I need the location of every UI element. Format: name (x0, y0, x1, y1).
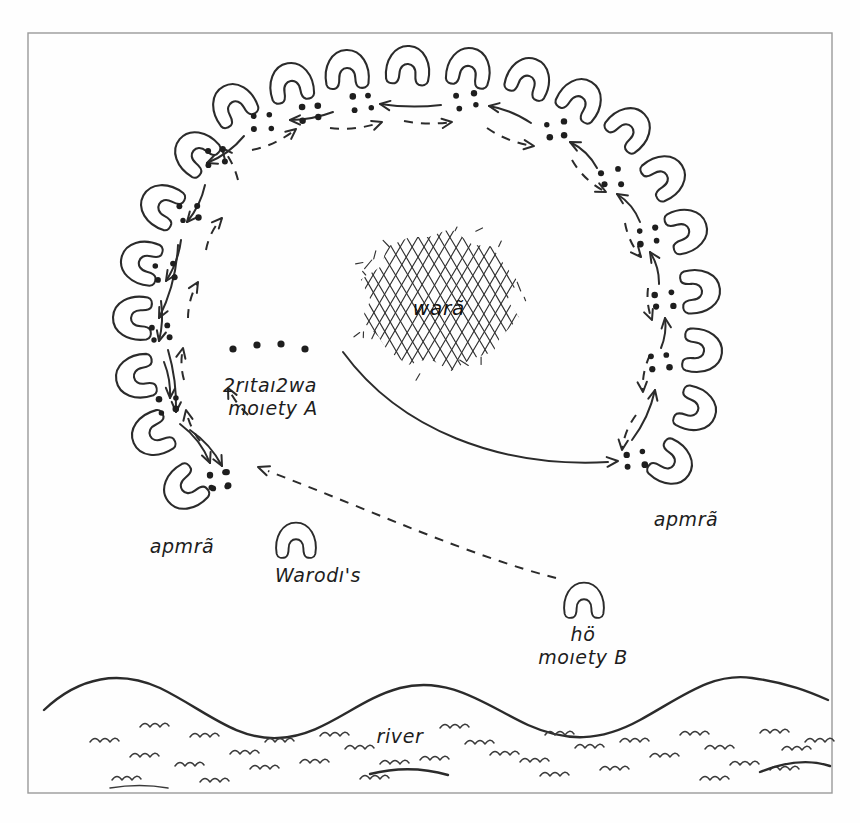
dot (222, 159, 228, 165)
wave-mark (575, 744, 604, 748)
hatch-stroke (474, 200, 592, 405)
wave-mark (140, 723, 169, 727)
dashed-line (487, 128, 534, 146)
hatch-stray-tick (455, 227, 457, 231)
wave-mark (490, 751, 519, 755)
hatch-stroke (453, 200, 572, 405)
hatch-stray-tick (374, 251, 376, 259)
dot (176, 203, 182, 209)
house-symbol (113, 353, 158, 402)
wave-mark (265, 738, 294, 742)
village-dot-cluster (251, 112, 274, 132)
dot (172, 274, 178, 280)
village-dot-cluster (453, 90, 478, 111)
house-symbol (671, 383, 722, 437)
wave-mark (90, 738, 119, 742)
house-symbol (205, 76, 261, 130)
house-symbol (602, 99, 660, 157)
wave-mark (300, 759, 329, 763)
solid-exchange-arrow (290, 112, 333, 125)
moiety-a-dot-row (229, 340, 308, 352)
solid-exchange-arrow (617, 194, 640, 222)
village-circle-diagram: warã 2rıtaı2wa moıety A hö moıety B apmr… (0, 0, 860, 823)
arrowhead (570, 142, 581, 151)
arrowhead (189, 282, 198, 293)
dot (637, 228, 643, 234)
arrowhead (638, 382, 647, 392)
wave-mark (130, 753, 159, 757)
dot (653, 304, 659, 310)
house-outline (663, 203, 713, 256)
wave-mark (465, 740, 494, 744)
village-dot-cluster (299, 102, 322, 123)
house-symbol (502, 52, 556, 103)
wave-mark (620, 738, 649, 742)
house-outline (553, 71, 610, 126)
house-outline (266, 60, 315, 105)
dot (224, 484, 230, 490)
solid-exchange-arrow (661, 318, 671, 348)
dot (251, 113, 257, 119)
dashed-exchange-arrow (252, 129, 296, 150)
moiety-a-name-label: 2rıtaı2wa (223, 374, 317, 396)
dot (669, 289, 675, 295)
wave-mark (650, 753, 679, 757)
dot (299, 117, 305, 123)
dot (648, 353, 654, 359)
hatch-stroke (519, 200, 637, 405)
moiety-a-sublabel: moıety A (228, 397, 318, 419)
moiety-b-name-label: hö (571, 623, 596, 645)
house-outline (645, 436, 701, 493)
house-outline (671, 383, 722, 437)
dot (253, 341, 260, 348)
hatch-stroke (563, 200, 682, 405)
wave-mark (520, 758, 549, 762)
house-symbol (166, 123, 223, 181)
river-stroke (370, 769, 448, 775)
house-outline (445, 45, 494, 90)
house-symbol (663, 203, 713, 256)
warodis-house-symbol (276, 523, 316, 558)
dot (151, 337, 156, 342)
dot (641, 461, 648, 468)
house-outline (166, 123, 223, 181)
dot (369, 105, 375, 111)
house-outline (205, 76, 261, 130)
dot (170, 261, 176, 267)
dot (207, 472, 213, 478)
solid-line (489, 106, 531, 123)
dot (224, 469, 230, 475)
dot (159, 410, 164, 415)
dot (352, 107, 358, 113)
house-symbol (681, 328, 724, 375)
hatch-stray-tick (372, 331, 376, 339)
dot (180, 218, 185, 223)
hatch-stray-tick (499, 241, 502, 247)
house-outline (502, 52, 556, 103)
dashed-line (268, 471, 556, 578)
hatch-stroke (487, 200, 606, 405)
dot (471, 90, 477, 96)
dot (156, 396, 163, 403)
dashed-exchange-arrow (206, 218, 222, 250)
dashed-exchange-arrow (638, 355, 650, 392)
solid-line (380, 104, 441, 107)
house-outline (155, 461, 212, 519)
dot (666, 364, 673, 371)
village-dot-cluster (637, 225, 660, 248)
arrowhead (619, 440, 628, 451)
dot (637, 241, 644, 248)
dashed-exchange-arrow (644, 288, 653, 320)
dashed-line (252, 129, 296, 150)
dashed-exchange-arrow (330, 121, 382, 130)
hatch-stray-tick (356, 263, 363, 264)
wave-mark (250, 765, 279, 769)
dot (640, 449, 646, 455)
dot (649, 366, 655, 372)
wave-mark (705, 745, 734, 749)
dot (651, 292, 658, 299)
wave-mark (345, 745, 374, 749)
hatch-stray-tick (363, 271, 366, 275)
house-symbol (553, 71, 610, 126)
dot (624, 452, 630, 458)
